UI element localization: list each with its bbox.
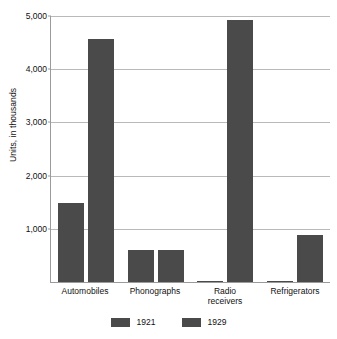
x-tick-label: Radioreceivers — [190, 286, 260, 306]
legend-label: 1929 — [208, 317, 227, 327]
y-tick-label: 3,000 — [26, 117, 47, 127]
bar-group — [260, 16, 330, 282]
legend: 19211929 — [0, 317, 337, 327]
x-tick-label: Refrigerators — [260, 286, 330, 306]
bar-1929-automobiles — [88, 39, 114, 282]
bar-1921-refrigerators — [267, 281, 293, 282]
bar-1921-phonographs — [128, 250, 154, 282]
bar-group — [191, 16, 261, 282]
legend-label: 1921 — [137, 317, 156, 327]
bar-chart: Units, in thousands 1,0002,0003,0004,000… — [0, 0, 337, 339]
bar-1929-refrigerators — [297, 235, 323, 282]
legend-item-1921: 1921 — [111, 317, 156, 327]
bar-1929-radio-receivers — [227, 20, 253, 282]
bar-1929-phonographs — [158, 250, 184, 282]
x-axis-labels: AutomobilesPhonographsRadioreceiversRefr… — [50, 286, 330, 306]
y-tick-label: 1,000 — [26, 224, 47, 234]
bar-1921-automobiles — [58, 203, 84, 282]
legend-swatch — [182, 318, 201, 327]
y-tick-label: 5,000 — [26, 11, 47, 21]
plot-area: 1,0002,0003,0004,0005,000 — [50, 16, 330, 283]
x-tick-label: Phonographs — [120, 286, 190, 306]
y-tick-label: 4,000 — [26, 64, 47, 74]
legend-item-1929: 1929 — [182, 317, 227, 327]
bar-group — [121, 16, 191, 282]
legend-swatch — [111, 318, 130, 327]
y-axis-title: Units, in thousands — [8, 65, 18, 185]
bar-groups — [51, 16, 330, 282]
bar-group — [51, 16, 121, 282]
y-tick-label: 2,000 — [26, 171, 47, 181]
x-tick-label: Automobiles — [50, 286, 120, 306]
bar-1921-radio-receivers — [197, 281, 223, 282]
